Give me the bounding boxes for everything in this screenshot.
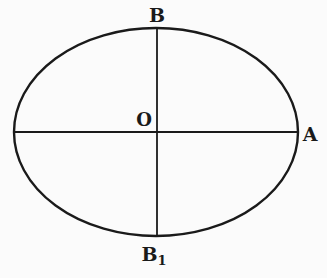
label-b1-letter: B [141, 243, 157, 265]
ellipse-diagram: B O A B1 [0, 0, 327, 278]
label-b1-bottom: B1 [141, 243, 166, 268]
label-a-right: A [302, 123, 318, 145]
label-b1-subscript: 1 [158, 253, 167, 268]
label-o-center: O [136, 109, 152, 130]
label-b-top: B [149, 4, 165, 26]
